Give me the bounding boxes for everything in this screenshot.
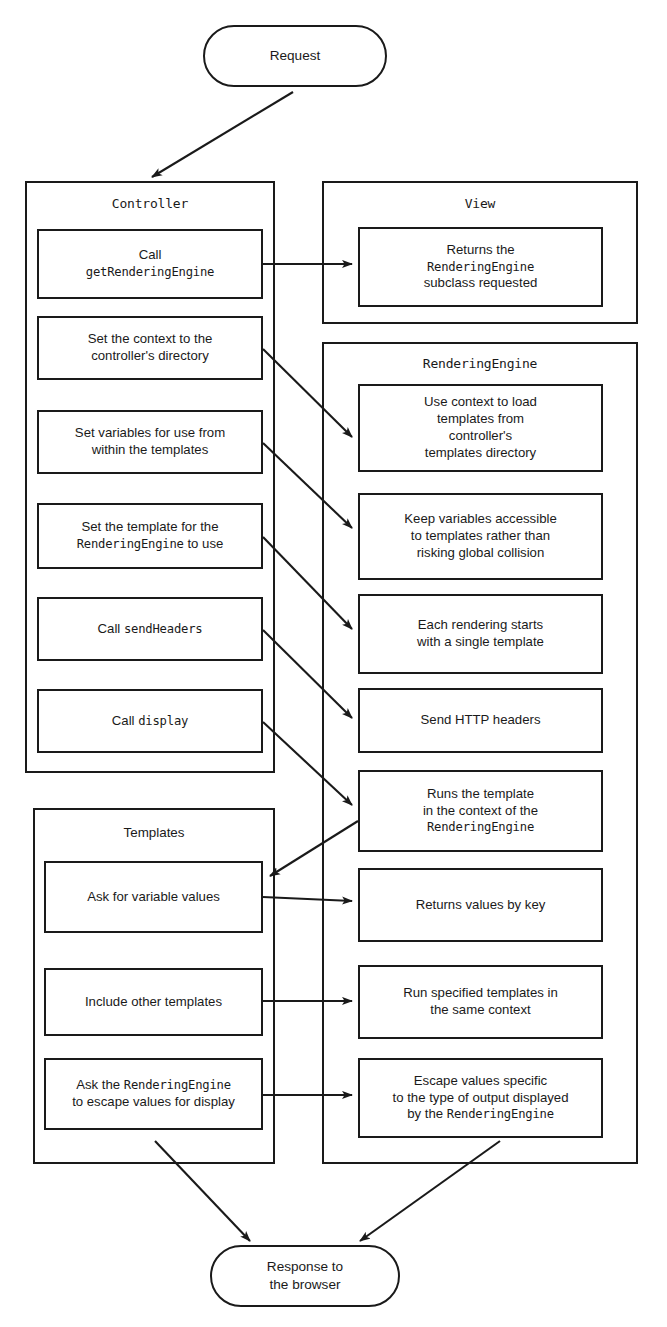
node-t1-label: Ask for variable values: [81, 889, 226, 906]
node-c4-label: Set the template for theRenderingEngine …: [71, 519, 230, 553]
node-r3: Each rendering startswith a single templ…: [358, 594, 603, 674]
node-r1-label: Use context to loadtemplates fromcontrol…: [418, 394, 543, 462]
node-v1-label: Returns theRenderingEnginesubclass reque…: [418, 242, 544, 293]
node-r8: Escape values specificto the type of out…: [358, 1058, 603, 1138]
node-c1: CallgetRenderingEngine: [37, 229, 263, 299]
node-t1: Ask for variable values: [44, 861, 263, 933]
start-node-label: Request: [270, 47, 321, 65]
node-c2-label: Set the context to thecontroller's direc…: [82, 331, 219, 365]
start-node-request: Request: [203, 25, 387, 87]
group-controller-title: Controller: [25, 196, 275, 211]
node-c5: Call sendHeaders: [37, 597, 263, 661]
node-t3: Ask the RenderingEngineto escape values …: [44, 1058, 263, 1130]
flowchart-diagram: Request Controller CallgetRenderingEngin…: [0, 0, 667, 1327]
node-t2-label: Include other templates: [79, 994, 228, 1011]
node-c4: Set the template for theRenderingEngine …: [37, 503, 263, 569]
node-r8-label: Escape values specificto the type of out…: [387, 1073, 575, 1124]
node-c6: Call display: [37, 689, 263, 753]
node-r7: Run specified templates inthe same conte…: [358, 965, 603, 1039]
node-t2: Include other templates: [44, 968, 263, 1036]
group-renderingengine-title: RenderingEngine: [322, 356, 638, 371]
node-r6: Returns values by key: [358, 868, 603, 942]
node-c1-label: CallgetRenderingEngine: [80, 247, 220, 281]
node-r4: Send HTTP headers: [358, 688, 603, 753]
node-r3-label: Each rendering startswith a single templ…: [411, 617, 550, 651]
node-r6-label: Returns values by key: [410, 897, 552, 914]
node-c5-label: Call sendHeaders: [92, 621, 209, 638]
node-c3: Set variables for use fromwithin the tem…: [37, 410, 263, 474]
node-t3-label: Ask the RenderingEngineto escape values …: [66, 1077, 241, 1111]
group-view-title: View: [322, 196, 638, 211]
node-r5: Runs the templatein the context of theRe…: [358, 770, 603, 852]
end-node-response: Response tothe browser: [210, 1245, 400, 1307]
node-c6-label: Call display: [106, 713, 194, 730]
node-r2-label: Keep variables accessibleto templates ra…: [398, 511, 562, 562]
node-r1: Use context to loadtemplates fromcontrol…: [358, 384, 603, 472]
node-r4-label: Send HTTP headers: [415, 712, 547, 729]
group-templates-title: Templates: [33, 825, 275, 840]
node-r7-label: Run specified templates inthe same conte…: [397, 985, 564, 1019]
node-c2: Set the context to thecontroller's direc…: [37, 316, 263, 380]
node-v1: Returns theRenderingEnginesubclass reque…: [358, 227, 603, 307]
end-node-label: Response tothe browser: [267, 1258, 343, 1293]
node-r2: Keep variables accessibleto templates ra…: [358, 493, 603, 580]
edge-request-to-controller: [152, 92, 293, 177]
node-r5-label: Runs the templatein the context of theRe…: [417, 786, 544, 837]
node-c3-label: Set variables for use fromwithin the tem…: [69, 425, 231, 459]
